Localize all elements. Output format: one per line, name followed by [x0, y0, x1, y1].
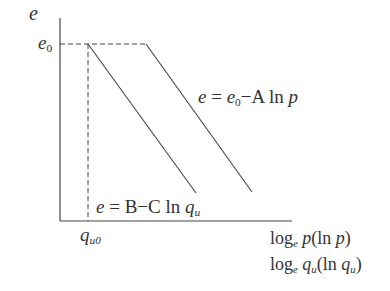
eq-sign: = — [104, 196, 124, 217]
log-text: log — [270, 228, 293, 248]
e0-sub: 0 — [46, 42, 52, 54]
eq-rest: B−C ln — [125, 196, 185, 217]
eq-rest: −A ln — [241, 86, 289, 107]
x-axis-label-p: loge p(ln p) — [270, 228, 351, 249]
paren-close: ) — [356, 254, 362, 274]
paren-var: p — [336, 228, 345, 248]
eq-var-sub: u — [195, 206, 201, 218]
paren-var: q — [341, 254, 350, 274]
eq-e0: e — [227, 86, 235, 107]
y-axis-label: e — [29, 2, 38, 25]
lower-equation: e = B−C ln qu — [96, 196, 200, 218]
e0-label: e0 — [38, 32, 52, 54]
paren-ln: (ln — [311, 228, 336, 248]
upper-equation: e = e0−A ln p — [198, 86, 298, 108]
log-base: e — [293, 263, 298, 275]
qu0-sub: u0 — [90, 234, 101, 246]
log-base: e — [293, 237, 298, 249]
x-axis-label-qu: loge qu(ln qu) — [270, 254, 362, 275]
qu0-label: qu0 — [80, 224, 101, 246]
eq-var: p — [288, 86, 298, 107]
lower-line-qu — [88, 44, 196, 193]
var-p: p — [302, 228, 311, 248]
eq-sign: = — [206, 86, 226, 107]
qu0-var: q — [80, 224, 90, 245]
paren-ln: (ln — [317, 254, 342, 274]
paren-close: ) — [345, 228, 351, 248]
eq-var: q — [185, 196, 195, 217]
upper-line-p — [146, 44, 252, 192]
log-text: log — [270, 254, 293, 274]
var-q: q — [302, 254, 311, 274]
